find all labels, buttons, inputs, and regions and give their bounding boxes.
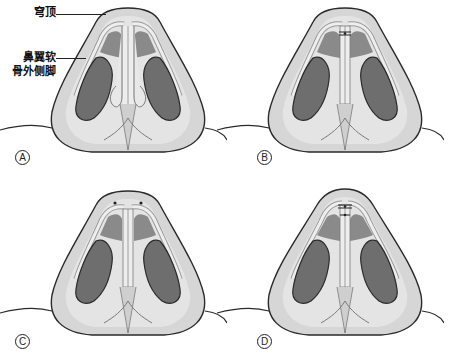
panel-label-b: B: [257, 150, 272, 165]
panel-label-a: A: [15, 150, 30, 165]
nose-base-illustration: [217, 0, 444, 180]
panel-label-d: D: [257, 334, 272, 349]
label-lateral-crus-line1: 鼻翼软: [8, 51, 56, 65]
panel-d: [217, 183, 444, 361]
label-dome: 穹顶: [22, 6, 56, 20]
panel-label-c: C: [15, 334, 30, 349]
label-lateral-crus-line2: 骨外侧脚: [2, 65, 56, 79]
panel-b: [217, 0, 444, 180]
leader-line-lateral-crus: [56, 58, 86, 59]
panel-a: [0, 0, 227, 180]
leader-line-dome: [56, 14, 106, 15]
panel-c: [0, 183, 227, 361]
nose-base-illustration: [0, 0, 227, 180]
nose-base-illustration: [0, 183, 227, 361]
nose-base-illustration: [217, 183, 444, 361]
